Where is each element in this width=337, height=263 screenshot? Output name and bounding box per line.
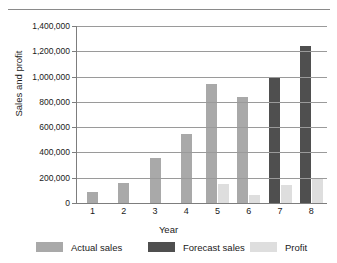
legend-item-actual-sales[interactable]: Actual sales (36, 240, 122, 254)
y-axis-tick-label: 200,000 (2, 174, 70, 182)
y-axis-tick (72, 127, 77, 128)
bar-forecast-sales-year-7 (269, 78, 280, 203)
bar-profit-year-5 (218, 184, 229, 203)
bar-actual-sales-year-1 (87, 192, 98, 203)
legend-label: Actual sales (71, 242, 122, 253)
x-axis-tick-label-3: 3 (145, 206, 165, 216)
bar-profit-year-8 (312, 178, 323, 203)
bar-actual-sales-year-2 (118, 183, 129, 203)
x-axis-title: Year (0, 224, 337, 235)
bar-actual-sales-year-6 (237, 97, 248, 203)
x-axis-tick-label-6: 6 (239, 206, 259, 216)
bar-series-layer (77, 26, 327, 203)
gridline (77, 77, 327, 78)
legend-item-profit[interactable]: Profit (250, 240, 307, 254)
x-axis-tick-label-8: 8 (301, 206, 321, 216)
gridline (77, 178, 327, 179)
bar-forecast-sales-year-8 (300, 46, 311, 203)
bar-profit-year-6 (249, 195, 260, 203)
x-axis-tick-label-7: 7 (270, 206, 290, 216)
legend-swatch-icon (36, 242, 63, 252)
gridline (77, 127, 327, 128)
x-axis-line (77, 203, 327, 204)
gridline (77, 51, 327, 52)
legend-label: Forecast sales (183, 242, 245, 253)
legend-label: Profit (285, 242, 307, 253)
chart-legend: Actual salesForecast salesProfit (0, 240, 337, 256)
chart-container: 0200,000400,000600,000800,0001,000,0001,… (0, 0, 337, 263)
legend-item-forecast-sales[interactable]: Forecast sales (148, 240, 245, 254)
legend-swatch-icon (250, 242, 277, 252)
y-axis-tick (72, 77, 77, 78)
x-axis-tick-label-4: 4 (176, 206, 196, 216)
bar-actual-sales-year-3 (150, 158, 161, 204)
x-axis-tick-label-1: 1 (83, 206, 103, 216)
bar-profit-year-7 (281, 185, 292, 203)
y-axis-tick (72, 178, 77, 179)
y-axis-tick-label: 0 (2, 199, 70, 207)
legend-swatch-icon (148, 242, 175, 252)
y-axis-tick (72, 102, 77, 103)
y-axis-title: Sales and profit (13, 28, 24, 140)
plot-area (77, 26, 327, 203)
y-axis-tick (72, 26, 77, 27)
x-axis-tick-label-2: 2 (114, 206, 134, 216)
y-axis-tick-label: 400,000 (2, 148, 70, 156)
y-axis-tick (72, 203, 77, 204)
y-axis-tick (72, 152, 77, 153)
x-axis-tick-label-5: 5 (208, 206, 228, 216)
x-axis-tick-labels: 12345678 (77, 206, 327, 220)
gridline (77, 152, 327, 153)
bar-actual-sales-year-4 (181, 134, 192, 203)
gridline (77, 102, 327, 103)
gridline (77, 26, 327, 27)
y-axis-tick (72, 51, 77, 52)
